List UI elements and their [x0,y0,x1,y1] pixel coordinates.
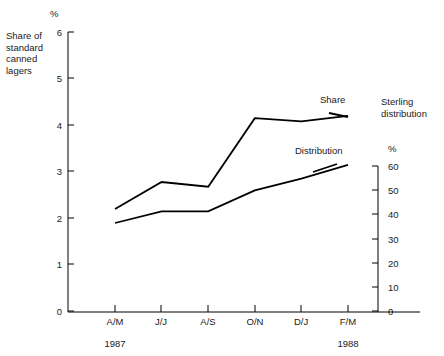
right-axis-ticks [372,166,378,311]
chart-canvas [0,0,444,356]
series-line-share [115,116,348,209]
x-axis-ticks [115,305,348,312]
line-chart: Share of standard canned lagers % Sterli… [0,0,444,356]
left-axis-ticks [68,32,74,311]
series-line-distribution [115,165,348,223]
